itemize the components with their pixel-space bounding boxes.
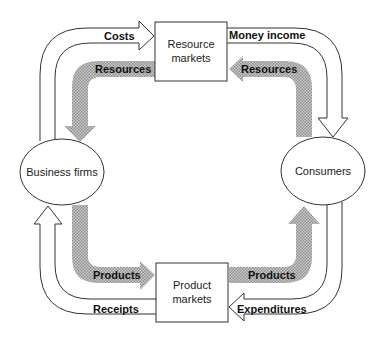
outlined-arrow: [227, 28, 348, 137]
products-left-label: Products: [93, 269, 141, 281]
resource-markets-box: Resource markets: [155, 22, 227, 81]
costs-flow: [40, 21, 154, 141]
resources-right-label: Resources: [241, 63, 297, 75]
money-income-flow: [227, 28, 348, 137]
product-markets-label-line1: Product: [173, 279, 211, 291]
product-markets-box: Product markets: [156, 263, 228, 322]
money-income-label: Money income: [229, 29, 305, 41]
outlined-arrow: [40, 21, 154, 141]
receipts-flow: [34, 206, 156, 314]
product-markets-label-line2: markets: [172, 293, 212, 305]
outlined-arrow: [34, 206, 156, 314]
expenditures-label: Expenditures: [237, 303, 307, 315]
resources-left-label: Resources: [95, 63, 151, 75]
circular-flow-diagram: Resource markets Product markets Busines…: [0, 0, 381, 340]
consumers-label: Consumers: [295, 165, 352, 177]
products-right-label: Products: [248, 269, 296, 281]
business-firms-label: Business firms: [26, 166, 98, 178]
business-firms-ellipse: Business firms: [20, 139, 104, 205]
resource-markets-label-line2: markets: [171, 52, 211, 64]
costs-label: Costs: [104, 30, 135, 42]
consumers-ellipse: Consumers: [281, 137, 365, 205]
receipts-label: Receipts: [93, 303, 139, 315]
resource-markets-label-line1: Resource: [167, 38, 214, 50]
